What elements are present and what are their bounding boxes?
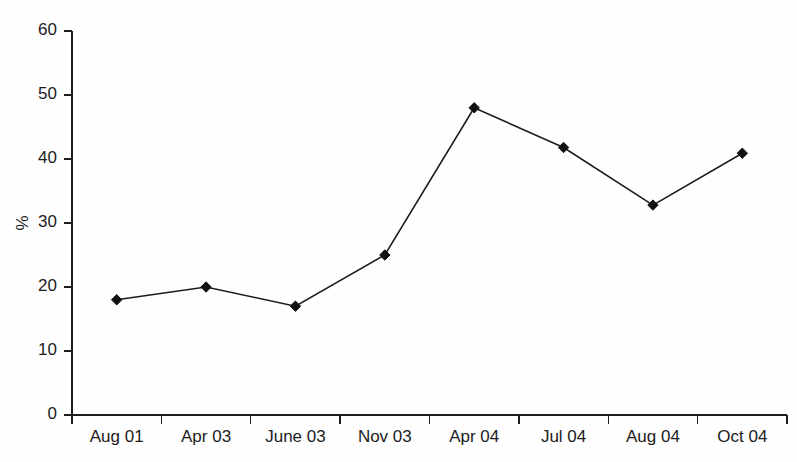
y-tick-label: 10 xyxy=(38,340,57,359)
y-tick-label: 20 xyxy=(38,276,57,295)
x-tick-label: Aug 04 xyxy=(626,427,680,446)
x-tick-label: Oct 04 xyxy=(717,427,767,446)
y-tick-label: 30 xyxy=(38,212,57,231)
x-tick-label: Nov 03 xyxy=(358,427,412,446)
line-chart: 60 50 40 30 20 10 0 % Aug 01Apr 03June 0… xyxy=(0,0,797,462)
x-tick-label: Apr 04 xyxy=(449,427,499,446)
x-tick-label: Aug 01 xyxy=(90,427,144,446)
y-tick-label: 60 xyxy=(38,20,57,39)
y-tick-label: 50 xyxy=(38,84,57,103)
y-tick-label: 0 xyxy=(48,404,57,423)
x-tick-label: June 03 xyxy=(265,427,326,446)
y-axis-title: % xyxy=(13,215,32,230)
x-tick-label: Jul 04 xyxy=(541,427,586,446)
y-tick-label: 40 xyxy=(38,148,57,167)
chart-canvas: 60 50 40 30 20 10 0 % Aug 01Apr 03June 0… xyxy=(0,0,797,462)
x-tick-label: Apr 03 xyxy=(181,427,231,446)
